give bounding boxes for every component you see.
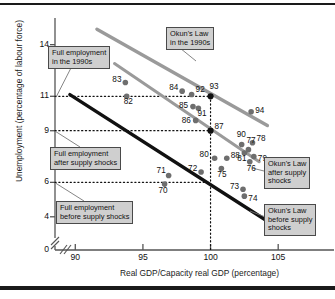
annotation-line: shocks <box>268 224 312 233</box>
x-axis-tick-label: 100 <box>197 252 225 262</box>
top-divider-rule <box>0 3 335 5</box>
annotation-okuns-law-after-supply-shocks: Okun's Law after supply shocks <box>264 157 310 189</box>
data-point <box>212 155 218 161</box>
data-point-label: 71 <box>157 166 166 175</box>
data-point-label: 78 <box>256 134 265 143</box>
data-point <box>207 128 213 134</box>
annotation-line: in the 1990s <box>170 39 210 48</box>
data-point-label: 91 <box>197 109 206 118</box>
y-axis-break-mark <box>51 237 59 245</box>
annotation-line: in the 1990s <box>52 58 106 67</box>
data-point-label: 82 <box>124 97 133 106</box>
bottom-divider-rule <box>0 286 335 290</box>
okun-law-chart-figure: 04691114 9095100105 70717273747576777879… <box>0 0 335 299</box>
data-point-label: 87 <box>215 122 224 131</box>
data-point <box>193 118 199 124</box>
annotation-leader-line <box>56 183 84 201</box>
annotation-line: before supply shocks <box>60 213 129 222</box>
y-axis-tick-label: 11 <box>33 90 49 100</box>
data-point-label: 83 <box>112 75 121 84</box>
data-point-label: 73 <box>230 182 239 191</box>
x-axis-tick-label: 90 <box>61 252 89 262</box>
x-axis-tick-label: 105 <box>264 252 292 262</box>
data-point <box>123 80 129 86</box>
x-axis-tick-label: 95 <box>129 252 157 262</box>
data-point-label: 94 <box>255 106 264 115</box>
data-point-label: 70 <box>159 186 168 195</box>
data-point <box>166 173 172 179</box>
data-point <box>248 109 254 115</box>
data-point-label: 72 <box>188 164 197 173</box>
data-point-label: 77 <box>246 136 255 145</box>
x-axis-title: Real GDP/Capacity real GDP (percentage) <box>120 268 279 278</box>
data-point <box>189 92 195 98</box>
data-point-label: 76 <box>247 164 256 173</box>
y-axis-tick-label: 6 <box>33 176 49 186</box>
data-point <box>179 88 185 94</box>
annotation-line: shocks <box>268 177 306 186</box>
annotation-line: after supply shocks <box>54 159 117 168</box>
data-point <box>240 186 246 192</box>
data-point-label: 74 <box>248 194 257 203</box>
data-point-label: 80 <box>200 150 209 159</box>
data-point <box>239 142 245 148</box>
data-point <box>224 155 230 161</box>
annotation-leader-line <box>56 132 80 147</box>
data-point <box>198 169 204 175</box>
y-axis-tick-label: 14 <box>33 39 49 49</box>
data-point-label: 88 <box>231 151 240 160</box>
annotation-full-employment-1990s: Full employment in the 1990s <box>48 46 110 69</box>
y-axis-tick-label: 4 <box>33 211 49 221</box>
chart-plot-area: 04691114 9095100105 70717273747576777879… <box>0 6 335 284</box>
data-point <box>207 93 213 99</box>
y-axis-tick-label: 9 <box>33 125 49 135</box>
data-point <box>190 104 196 110</box>
data-point <box>251 154 257 160</box>
data-point-label: 75 <box>217 170 226 179</box>
data-point <box>242 193 248 199</box>
data-point-label: 93 <box>210 82 219 91</box>
annotation-full-employment-after-supply-shocks: Full employment after supply shocks <box>50 147 121 170</box>
data-point-label: 92 <box>196 85 205 94</box>
annotation-okuns-law-1990s: Okun's Law in the 1990s <box>166 27 214 50</box>
y-axis-tick-label: 0 <box>33 244 49 254</box>
data-point-label: 84 <box>169 83 178 92</box>
annotation-okuns-law-before-supply-shocks: Okun's Law before supply shocks <box>264 204 316 236</box>
y-axis-title: Unemployment (percentage of labour force… <box>14 32 24 182</box>
data-point-label: 86 <box>182 116 191 125</box>
data-point-label: 90 <box>237 130 246 139</box>
data-point-label: 85 <box>179 101 188 110</box>
annotation-full-employment-before-supply-shocks: Full employment before supply shocks <box>56 201 133 224</box>
